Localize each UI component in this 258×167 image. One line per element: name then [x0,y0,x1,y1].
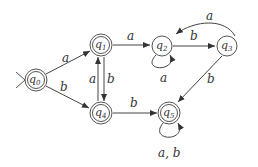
svg-text:a: a [206,9,213,23]
edge-q4-q1: a [89,57,98,101]
state-q1: q1 [90,34,112,56]
svg-text:a, b: a, b [158,146,180,160]
state-q4: q4 [90,102,112,124]
svg-text:b: b [107,72,115,86]
dfa-diagram: a b a b a b a b a b a, b q [0,0,258,167]
state-q3: q3 [217,36,237,56]
edge-q4-q5: b [113,96,157,113]
edge-q5-q5-loop: a, b [158,123,180,160]
edge-q0-q4: b [46,80,89,108]
edge-q1-q4: b [104,57,115,101]
svg-text:b: b [130,96,138,110]
edge-q3-q5: b [178,56,222,102]
edge-q1-q2: a [113,29,150,45]
svg-text:b: b [207,72,215,86]
svg-text:a: a [62,51,69,65]
state-q2: q2 [152,36,172,56]
dfa-canvas: a b a b a b a b a b a, b q [0,0,258,167]
svg-text:b: b [190,29,198,43]
svg-text:b: b [60,80,68,94]
svg-text:a: a [89,72,96,86]
svg-text:a: a [127,29,134,43]
edge-q3-q2: a [176,9,235,36]
edge-q0-q1: a [46,51,90,74]
state-q5: q5 [158,102,180,124]
start-marker [16,72,25,88]
svg-text:a: a [160,71,167,85]
state-q0: q0 [25,69,47,91]
edge-q2-q2-loop: a [152,55,171,85]
